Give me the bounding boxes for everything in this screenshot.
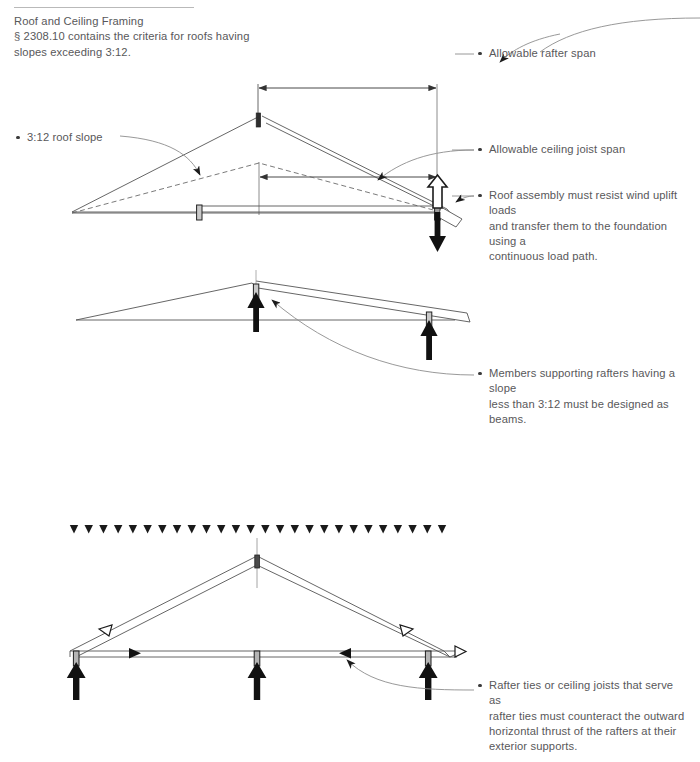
callout-line: and transfer them to the foundation usin… [489,220,667,247]
page-root: Roof and Ceiling Framing § 2308.10 conta… [0,0,700,762]
callout-text: Allowable ceiling joist span [489,142,693,157]
load-arrow-head [85,525,93,534]
leader-lines-top [452,18,700,196]
load-arrow-head [143,525,151,534]
callout-line: Roof assembly must resist wind uplift lo… [489,189,677,216]
outward-thrust-arrow [455,646,466,657]
bullet-icon [478,372,482,376]
load-arrow-head [246,525,254,534]
leader-joist-span [378,150,474,180]
callout-text: Members supporting rafters having a slop… [489,366,696,427]
leader-members-supporting [272,300,474,375]
load-arrow-head [379,525,387,534]
callout-text: Roof assembly must resist wind uplift lo… [489,188,690,264]
gravity-arrow-solid-top [429,212,446,252]
page-header: Roof and Ceiling Framing § 2308.10 conta… [14,14,344,60]
bearing-post-left [73,651,79,666]
load-arrow-head [70,525,78,534]
callout-rafter-ties: Rafter ties or ceiling joists that serve… [478,678,688,754]
load-arrow-head [349,525,357,534]
load-arrow-head [217,525,225,534]
distributed-load-arrows [70,508,446,534]
diagram-middle-low-slope [76,270,474,375]
load-arrow-head [99,525,107,534]
dimension-ceiling-joist-span [259,162,436,215]
callout-members-supporting-rafters: Members supporting rafters having a slop… [478,366,696,427]
header-rule [14,7,194,8]
ridge-post-bottom [255,555,260,568]
load-arrow-head [394,525,402,534]
load-arrow-head [173,525,181,534]
load-arrow-head [261,525,269,534]
page-title: Roof and Ceiling Framing [14,14,344,29]
load-arrow-head [423,525,431,534]
rafter-thrust-arrow-left [99,625,112,636]
bullet-icon [478,684,482,688]
post-middle-ridge [253,284,258,299]
load-arrow-head [188,525,196,534]
reaction-arrow-middle-right [420,320,437,360]
interior-post-top [197,205,202,220]
bullet-icon [16,136,20,140]
header-line-2: § 2308.10 contains the criteria for roof… [14,29,344,44]
reaction-arrow-middle-left [247,292,264,332]
tie-tension-arrow-right [339,648,351,658]
load-arrow-head [202,525,210,534]
load-arrow-head [305,525,313,534]
exterior-post-top [435,205,462,227]
bullet-icon [478,52,482,56]
callout-line: rafter ties must counteract the outward [489,710,684,722]
post-middle-right [426,312,431,327]
callout-allowable-rafter-span: Allowable rafter span [478,46,693,61]
callout-text: Rafter ties or ceiling joists that serve… [489,678,688,754]
load-arrow-head [335,525,343,534]
callout-line: less than 3:12 must be designed as beams… [489,398,669,425]
ridge-post-top [256,84,260,127]
load-arrow-head [408,525,416,534]
reaction-arrow-center [248,662,267,700]
uplift-arrow-hollow [428,175,447,208]
load-arrow-head [114,525,122,534]
callout-wind-uplift: Roof assembly must resist wind uplift lo… [478,188,690,264]
tie-tension-arrow-left [129,648,141,658]
rafter-thrust-arrow-right [400,625,413,636]
callout-line: Rafter ties or ceiling joists that serve… [489,679,673,706]
callout-text: 3:12 roof slope [27,130,136,145]
bullet-icon [478,148,482,152]
reaction-arrow-left [67,662,86,700]
load-arrow-head [232,525,240,534]
load-arrow-head [291,525,299,534]
dimension-rafter-span [258,84,437,212]
leader-rafter-ties [347,660,474,690]
diagram-bottom-gable-truss [67,508,474,700]
load-arrow-head [158,525,166,534]
callout-line: horizontal thrust of the rafters at thei… [489,725,676,737]
callout-line: Members supporting rafters having a slop… [489,367,675,394]
load-arrow-head [276,525,284,534]
bearing-post-center [254,651,260,666]
load-arrow-head [129,525,137,534]
ceiling-joist-top [72,206,437,213]
load-arrow-head [320,525,328,534]
alternate-slope-dashed [72,163,437,213]
callout-roof-slope: 3:12 roof slope [16,130,136,145]
callout-line: continuous load path. [489,250,598,262]
header-line-3: slopes exceeding 3:12. [14,45,344,60]
bullet-icon [478,194,482,198]
callout-allowable-ceiling-joist-span: Allowable ceiling joist span [478,142,693,157]
reaction-arrow-right [419,662,438,700]
load-arrow-head [364,525,372,534]
leader-uplift [456,196,474,202]
bearing-post-right [425,651,431,666]
load-arrow-head [438,525,446,534]
callout-text: Allowable rafter span [489,46,693,61]
callout-line: exterior supports. [489,740,577,752]
